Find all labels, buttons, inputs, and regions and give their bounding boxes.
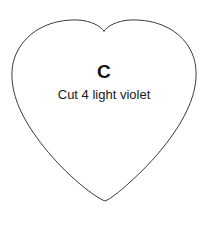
heart-outline-shape: [0, 0, 208, 235]
heart-outline-path: [12, 20, 196, 201]
pattern-canvas: C Cut 4 light violet: [0, 0, 208, 235]
